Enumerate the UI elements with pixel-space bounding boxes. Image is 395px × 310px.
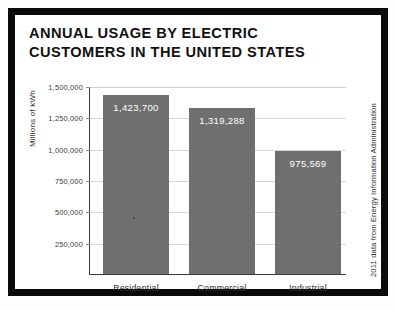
bar-residential[interactable]: 1,423,700 (103, 95, 169, 274)
x-axis-line (89, 274, 346, 275)
tick-mark (86, 87, 90, 88)
page-title: ANNUAL USAGE BY ELECTRIC CUSTOMERS IN TH… (29, 24, 349, 62)
tick-mark (86, 118, 90, 119)
x-tick-label-commercial: Commercial (189, 283, 255, 293)
scanned-page: ANNUAL USAGE BY ELECTRIC CUSTOMERS IN TH… (0, 0, 395, 310)
y-tick-label-750000: 750,000 (55, 177, 83, 186)
bar-industrial[interactable]: 975,569 (275, 151, 341, 273)
tick-mark (86, 181, 90, 182)
y-tick-label-1500000: 1,500,000 (48, 83, 83, 92)
x-tick-label-industrial: Industrial (275, 283, 341, 293)
y-tick-label-1250000: 1,250,000 (48, 114, 83, 123)
scan-artifact-speck (133, 217, 135, 219)
tick-mark (86, 244, 90, 245)
y-tick-label-1000000: 1,000,000 (48, 145, 83, 154)
y-tick-label-250000: 250,000 (55, 239, 83, 248)
plot-area: 1,500,000 1,250,000 1,000,000 750,000 50… (89, 87, 346, 275)
tick-mark (86, 150, 90, 151)
y-axis-title: Millions of kWh (28, 90, 37, 147)
gridline-1500000: 1,500,000 (90, 87, 346, 88)
y-tick-label-500000: 500,000 (55, 208, 83, 217)
bar-value-industrial: 975,569 (275, 158, 341, 169)
bar-commercial[interactable]: 1,319,288 (189, 108, 255, 273)
x-tick-label-residential: Residential (103, 283, 169, 293)
figure-inner: ANNUAL USAGE BY ELECTRIC CUSTOMERS IN TH… (15, 15, 381, 289)
bar-value-commercial: 1,319,288 (189, 115, 255, 126)
bar-value-residential: 1,423,700 (103, 102, 169, 113)
tick-mark (86, 212, 90, 213)
source-attribution: 2011 data from Energy Information Admini… (369, 103, 378, 277)
figure-frame: ANNUAL USAGE BY ELECTRIC CUSTOMERS IN TH… (8, 8, 388, 296)
